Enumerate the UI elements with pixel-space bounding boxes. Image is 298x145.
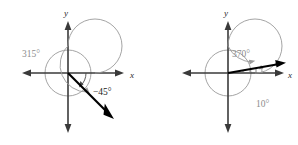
left-y-axis-top-arrowhead	[65, 21, 72, 30]
right-y-axis-label: y	[223, 8, 228, 18]
right-x-axis-left-arrowhead	[182, 70, 191, 77]
right-x-axis-label: x	[287, 70, 292, 80]
left-x-axis-label: x	[129, 70, 134, 80]
left-x-axis-right-arrowhead	[115, 70, 124, 77]
right-y-axis-top-arrowhead	[225, 21, 232, 30]
coordinate-plane-svg: x y 315° −45°	[0, 0, 298, 145]
right-x-axis-right-arrowhead	[275, 70, 284, 77]
right-terminal-ray-arrowhead	[275, 60, 286, 68]
left-panel: x y 315° −45°	[22, 8, 134, 133]
right-panel: x y 370° 10°	[182, 8, 292, 133]
right-arc-370-arrowhead	[249, 60, 255, 65]
left-x-axis-left-arrowhead	[22, 70, 31, 77]
left-y-axis-bottom-arrowhead	[65, 124, 72, 133]
left-angle-label-315: 315°	[22, 49, 40, 59]
coterminal-angles-figure: x y 315° −45°	[0, 0, 298, 145]
right-angle-label-10: 10°	[256, 99, 270, 109]
left-terminal-ray-arrowhead	[104, 104, 115, 120]
left-y-axis-label: y	[63, 8, 68, 18]
right-y-axis-bottom-arrowhead	[225, 124, 232, 133]
right-angle-label-370: 370°	[232, 49, 250, 59]
left-angle-label-negative-45: −45°	[93, 87, 112, 97]
